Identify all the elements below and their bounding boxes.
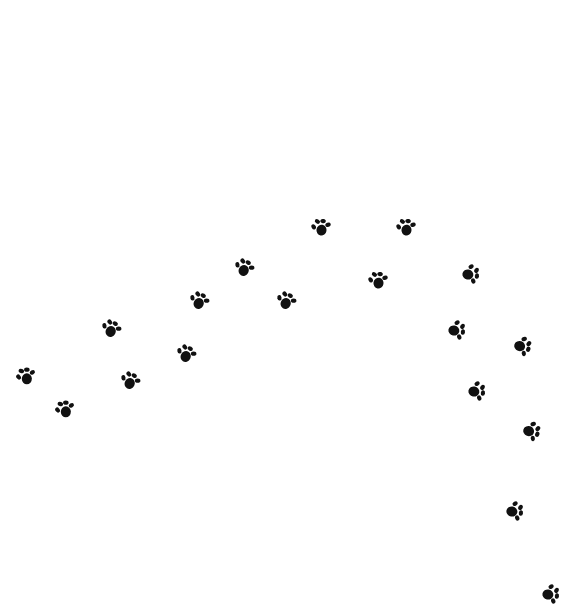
paw-print-icon [270, 286, 300, 316]
paw-print-icon [501, 497, 526, 522]
paw-print-icon [517, 416, 545, 444]
paw-print-icon [53, 399, 75, 421]
paw-print-icon [14, 366, 36, 388]
paw-print-icon [457, 260, 482, 285]
paw-print-icon [443, 316, 468, 341]
paw-print-icon [508, 331, 536, 359]
paw-print-icon [537, 580, 562, 605]
paw-print-icon [114, 366, 144, 396]
paw-print-icon [463, 377, 488, 402]
paw-print-icon [364, 268, 389, 293]
paw-print-icon [307, 215, 332, 240]
paw-print-icon [170, 339, 200, 369]
paw-print-icon [95, 314, 125, 344]
paw-print-icon [183, 286, 213, 316]
paw-print-icon [392, 215, 417, 240]
paw-print-icon [228, 253, 258, 283]
